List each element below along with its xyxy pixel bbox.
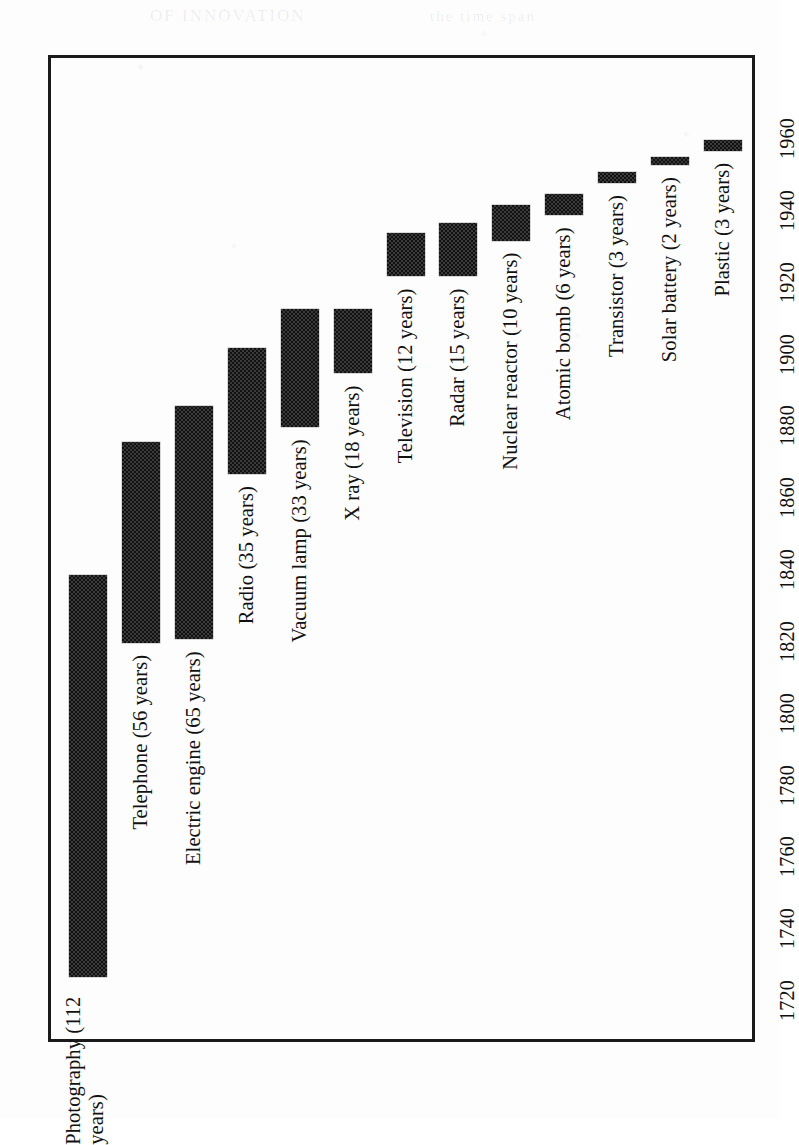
bar-label-plastic: Plastic (3 years) bbox=[711, 163, 733, 297]
tick-label-1860: 1860 bbox=[776, 472, 799, 524]
bar-label-radar: Radar (15 years) bbox=[446, 288, 468, 426]
tick-label-1740: 1740 bbox=[776, 903, 799, 955]
tick-label-1820: 1820 bbox=[776, 615, 799, 667]
bar-telephone[interactable] bbox=[122, 442, 160, 643]
bar-label-television: Television (12 years) bbox=[394, 288, 416, 463]
bar-x-ray[interactable] bbox=[334, 309, 372, 374]
bar-label-atomic-bomb: Atomic bomb (6 years) bbox=[552, 227, 574, 420]
bar-label-x-ray: X ray (18 years) bbox=[341, 385, 363, 520]
bar-label-nuclear-reactor: Nuclear reactor (10 years) bbox=[499, 253, 521, 470]
bar-plastic[interactable] bbox=[704, 140, 742, 151]
bar-label-electric-engine: Electric engine (65 years) bbox=[182, 651, 204, 865]
bar-label-line: Photography (112 bbox=[62, 997, 84, 1145]
bar-electric-engine[interactable] bbox=[175, 406, 213, 639]
tick-label-1960: 1960 bbox=[776, 113, 799, 165]
bar-label-transistor: Transistor (3 years) bbox=[605, 195, 627, 357]
tick-label-1780: 1780 bbox=[776, 759, 799, 811]
tick-label-1720: 1720 bbox=[776, 975, 799, 1027]
tick-label-1840: 1840 bbox=[776, 544, 799, 596]
bar-label-solar-battery: Solar battery (2 years) bbox=[658, 177, 680, 362]
bar-television[interactable] bbox=[387, 233, 425, 276]
tick-label-1880: 1880 bbox=[776, 400, 799, 452]
tick-label-1920: 1920 bbox=[776, 256, 799, 308]
bar-label-line: years) bbox=[85, 1094, 107, 1145]
tick-label-1760: 1760 bbox=[776, 831, 799, 883]
bar-radar[interactable] bbox=[439, 223, 477, 277]
bar-label-telephone: Telephone (56 years) bbox=[129, 655, 151, 830]
bar-photography[interactable] bbox=[69, 575, 107, 977]
tick-label-1800: 1800 bbox=[776, 687, 799, 739]
tick-label-1900: 1900 bbox=[776, 328, 799, 380]
bar-label-photography: Photography (112years) bbox=[62, 995, 106, 1145]
bar-transistor[interactable] bbox=[598, 172, 636, 183]
bar-label-radio: Radio (35 years) bbox=[235, 486, 257, 624]
bar-solar-battery[interactable] bbox=[651, 157, 689, 165]
ghost-text: the time span bbox=[430, 8, 536, 25]
bar-vacuum-lamp[interactable] bbox=[281, 309, 319, 428]
bar-radio[interactable] bbox=[228, 348, 266, 474]
bar-label-vacuum-lamp: Vacuum lamp (33 years) bbox=[288, 439, 310, 642]
plot-inner: Photography (112years)Telephone (56 year… bbox=[48, 55, 755, 1042]
ghost-text: OF INNOVATION bbox=[150, 6, 306, 26]
tick-label-1940: 1940 bbox=[776, 184, 799, 236]
bar-atomic-bomb[interactable] bbox=[545, 194, 583, 216]
bar-nuclear-reactor[interactable] bbox=[492, 205, 530, 241]
